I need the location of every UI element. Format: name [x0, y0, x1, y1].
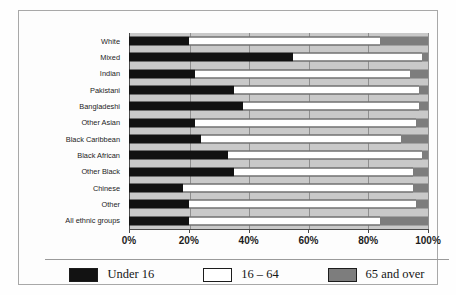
x-axis-tick	[368, 229, 369, 233]
legend-item[interactable]: 65 and over	[328, 267, 425, 282]
bar-segment-under16[interactable]	[129, 53, 293, 62]
bar-segment-over65[interactable]	[401, 135, 428, 144]
bar-row[interactable]	[129, 131, 428, 147]
stacked-bar[interactable]	[129, 53, 428, 62]
bar-row[interactable]	[129, 82, 428, 98]
gridline	[428, 33, 429, 229]
x-axis-tick	[249, 229, 250, 233]
category-axis-labels: WhiteMixedIndianPakistaniBangladeshiOthe…	[19, 33, 125, 229]
bar-rows	[129, 33, 428, 229]
bar-segment-over65[interactable]	[380, 37, 428, 46]
legend-swatch-mid	[203, 268, 232, 282]
category-label: Other Black	[19, 164, 125, 180]
bar-segment-under16[interactable]	[129, 184, 183, 193]
bar-segment-over65[interactable]	[416, 200, 428, 209]
bar-segment-mid[interactable]	[234, 167, 413, 176]
category-label: Pakistani	[19, 82, 125, 98]
bar-segment-over65[interactable]	[422, 53, 428, 62]
bar-segment-under16[interactable]	[129, 86, 234, 95]
bar-segment-under16[interactable]	[129, 102, 243, 111]
figure-frame: WhiteMixedIndianPakistaniBangladeshiOthe…	[18, 10, 438, 285]
x-axis-line	[129, 229, 428, 230]
bar-row[interactable]	[129, 180, 428, 196]
bar-segment-under16[interactable]	[129, 151, 228, 160]
legend-swatch-over65	[328, 268, 357, 282]
x-axis-tick-label: 60%	[298, 235, 318, 246]
bar-row[interactable]	[129, 115, 428, 131]
legend-label: Under 16	[107, 267, 154, 282]
stacked-bar[interactable]	[129, 118, 428, 127]
x-axis-tick	[428, 229, 429, 233]
bar-segment-mid[interactable]	[201, 135, 401, 144]
bar-segment-under16[interactable]	[129, 118, 195, 127]
x-axis-tick-label: 0%	[122, 235, 136, 246]
category-label: Mixed	[19, 49, 125, 65]
bar-row[interactable]	[129, 66, 428, 82]
stacked-bar[interactable]	[129, 151, 428, 160]
bar-segment-over65[interactable]	[413, 184, 428, 193]
bar-segment-under16[interactable]	[129, 216, 189, 225]
stacked-bar[interactable]	[129, 167, 428, 176]
bar-segment-mid[interactable]	[228, 151, 422, 160]
x-axis-tick-labels: 0%20%40%60%80%100%	[129, 235, 428, 251]
plot-area	[129, 33, 428, 229]
bar-row[interactable]	[129, 147, 428, 163]
category-label: White	[19, 33, 125, 49]
bar-segment-over65[interactable]	[416, 118, 428, 127]
stacked-bar[interactable]	[129, 200, 428, 209]
category-label: Black Caribbean	[19, 131, 125, 147]
bar-segment-mid[interactable]	[189, 216, 380, 225]
bar-segment-mid[interactable]	[195, 118, 416, 127]
bar-segment-mid[interactable]	[234, 86, 419, 95]
bar-row[interactable]	[129, 164, 428, 180]
bar-segment-over65[interactable]	[410, 69, 428, 78]
stacked-bar[interactable]	[129, 86, 428, 95]
legend-label: 16 – 64	[241, 267, 279, 282]
bar-segment-over65[interactable]	[380, 216, 428, 225]
bar-segment-mid[interactable]	[183, 184, 413, 193]
bar-segment-mid[interactable]	[189, 37, 380, 46]
legend-item[interactable]: Under 16	[69, 267, 154, 282]
category-label: All ethnic groups	[19, 213, 125, 229]
legend-swatch-under16	[69, 268, 98, 282]
category-label: Chinese	[19, 180, 125, 196]
bar-segment-mid[interactable]	[293, 53, 422, 62]
bar-segment-under16[interactable]	[129, 167, 234, 176]
bar-segment-over65[interactable]	[419, 102, 428, 111]
x-axis-tick-label: 40%	[239, 235, 259, 246]
x-axis-tick-label: 100%	[415, 235, 441, 246]
legend-item[interactable]: 16 – 64	[203, 267, 279, 282]
bar-row[interactable]	[129, 49, 428, 65]
stacked-bar[interactable]	[129, 69, 428, 78]
bar-row[interactable]	[129, 98, 428, 114]
legend-label: 65 and over	[366, 267, 425, 282]
stacked-bar[interactable]	[129, 37, 428, 46]
bar-segment-over65[interactable]	[413, 167, 428, 176]
bar-segment-over65[interactable]	[419, 86, 428, 95]
x-axis-tick-label: 20%	[179, 235, 199, 246]
category-label: Indian	[19, 66, 125, 82]
x-axis-tick-label: 80%	[358, 235, 378, 246]
bar-row[interactable]	[129, 33, 428, 49]
bar-row[interactable]	[129, 213, 428, 229]
x-axis-tick	[129, 229, 130, 233]
figure-container: WhiteMixedIndianPakistaniBangladeshiOthe…	[0, 0, 456, 295]
bar-segment-mid[interactable]	[189, 200, 416, 209]
bar-segment-mid[interactable]	[243, 102, 419, 111]
chart-legend: Under 1616 – 6465 and over	[45, 259, 449, 289]
category-label: Black African	[19, 147, 125, 163]
stacked-bar[interactable]	[129, 102, 428, 111]
bar-segment-over65[interactable]	[422, 151, 428, 160]
x-axis-tick	[189, 229, 190, 233]
bar-segment-under16[interactable]	[129, 69, 195, 78]
bar-segment-mid[interactable]	[195, 69, 410, 78]
bar-segment-under16[interactable]	[129, 37, 189, 46]
stacked-bar[interactable]	[129, 135, 428, 144]
bar-segment-under16[interactable]	[129, 135, 201, 144]
category-label: Other Asian	[19, 115, 125, 131]
stacked-bar[interactable]	[129, 184, 428, 193]
bar-segment-under16[interactable]	[129, 200, 189, 209]
category-label: Bangladeshi	[19, 98, 125, 114]
stacked-bar[interactable]	[129, 216, 428, 225]
bar-row[interactable]	[129, 196, 428, 212]
